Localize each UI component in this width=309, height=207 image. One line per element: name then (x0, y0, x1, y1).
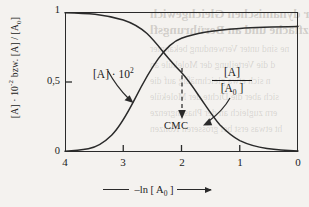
y-axis-title-lead: [A] · 10 (10, 86, 20, 118)
y-tick-label-05: 0,5 (47, 75, 60, 86)
y-axis-title-tail: ] (10, 17, 20, 20)
y-tick-label-1: 1 (55, 4, 60, 15)
annotation-right-denominator-open: [A (221, 82, 233, 94)
x-axis-title: –ln [ A0 ] (0, 184, 309, 198)
y-axis-title-exponent: -2 (7, 80, 15, 86)
y-tick-label-0: 0 (55, 145, 60, 156)
annotation-left-curve-exponent: 2 (130, 66, 134, 75)
x-tick-label-0: 0 (290, 156, 306, 168)
x-axis-title-arrow (177, 189, 211, 190)
right-annotation-arrow-shaft (209, 98, 230, 121)
y-axis-title: [A] · 10-2 bzw. [A] / [A0] (7, 0, 22, 143)
y-axis-title-middle: bzw. [A] / [A (10, 24, 20, 80)
annotation-right-curve: [A] [A0 ] (212, 66, 252, 98)
annotation-right-denominator-close: ] (237, 82, 244, 94)
cmc-label: CMC (164, 120, 188, 131)
x-axis-title-tail: ] (167, 184, 173, 195)
annotation-right-fraction-bar (212, 80, 252, 81)
x-tick-label-1: 1 (232, 156, 248, 168)
x-axis-title-text: –ln [ A (134, 184, 163, 195)
figure-chart-cmc: ch der dynamischen Gleichgewich renzfläc… (0, 0, 309, 207)
x-tick-label-2: 2 (174, 156, 190, 168)
annotation-right-denominator: [A0 ] (212, 82, 252, 98)
annotation-right-numerator: [A] (212, 66, 252, 79)
curve-free-monomer-scaled (65, 27, 298, 152)
y-axis-title-subscript: 0 (15, 20, 23, 24)
x-axis-title-leading-rule (103, 189, 129, 190)
annotation-left-curve-text: [A] · 10 (93, 68, 130, 80)
annotation-left-curve: [A] · 102 (93, 66, 134, 80)
x-tick-label-4: 4 (57, 156, 73, 168)
plot-canvas (65, 12, 298, 152)
x-tick-label-3: 3 (115, 156, 131, 168)
cmc-arrowhead (178, 110, 186, 119)
